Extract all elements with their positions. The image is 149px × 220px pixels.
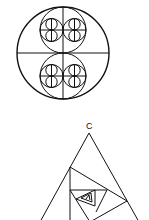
diagram-canvas: C — [0, 0, 149, 220]
circle-fractal-figure — [17, 7, 109, 99]
triangle-spiral-figure — [40, 133, 139, 220]
apex-label: C — [86, 121, 93, 131]
